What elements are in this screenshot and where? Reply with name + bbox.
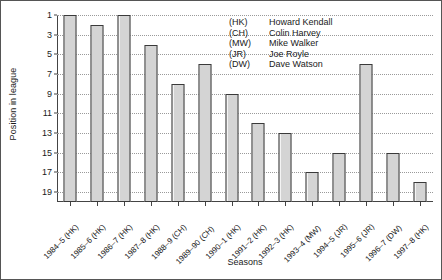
legend-item-code: (MW) — [229, 38, 265, 49]
legend-item-name: Joe Royle — [265, 49, 309, 60]
bar-slot: 1995–6 (JR) — [352, 15, 379, 202]
y-tick-label: 15 — [42, 148, 52, 157]
legend-item: (HK)Howard Kendall — [229, 17, 333, 28]
bar[interactable] — [198, 64, 211, 202]
bar[interactable] — [279, 133, 292, 202]
y-tick-label: 3 — [47, 30, 52, 39]
bar[interactable] — [91, 25, 104, 202]
legend-item: (DW)Dave Watson — [229, 59, 333, 70]
bar-slot: 1987–8 (HK) — [138, 15, 165, 202]
legend-item-name: Mike Walker — [265, 38, 318, 49]
bar-slot: 1985–6 (HK) — [84, 15, 111, 202]
bar[interactable] — [359, 64, 372, 202]
y-tick-label: 7 — [47, 70, 52, 79]
bar-slot: 1996–7 (DW) — [379, 15, 406, 202]
y-tick-label: 19 — [42, 188, 52, 197]
y-tick-label: 11 — [43, 109, 52, 118]
x-tick-mark — [124, 202, 125, 206]
y-tick-label: 5 — [47, 50, 52, 59]
legend-item-code: (CH) — [229, 28, 265, 39]
x-tick-mark — [420, 202, 421, 206]
x-tick-mark — [205, 202, 206, 206]
bar[interactable] — [332, 153, 345, 202]
legend-item: (JR)Joe Royle — [229, 49, 333, 60]
legend-item-code: (JR) — [229, 49, 265, 60]
x-tick-mark — [178, 202, 179, 206]
x-tick-mark — [97, 202, 98, 206]
y-tick-label: 13 — [42, 129, 52, 138]
bar[interactable] — [144, 45, 157, 202]
legend-item-name: Colin Harvey — [265, 28, 321, 39]
legend-item: (MW)Mike Walker — [229, 38, 333, 49]
x-tick-mark — [70, 202, 71, 206]
legend-item-name: Dave Watson — [265, 59, 323, 70]
y-tick-label: 17 — [42, 168, 52, 177]
x-axis-title: Seasons — [57, 257, 433, 267]
legend-item: (CH)Colin Harvey — [229, 28, 333, 39]
x-tick-mark — [339, 202, 340, 206]
bar-slot: 1989–90 (CH) — [191, 15, 218, 202]
bar[interactable] — [171, 84, 184, 202]
bar[interactable] — [413, 182, 426, 202]
bar[interactable] — [252, 123, 265, 202]
y-tick-label: 9 — [47, 89, 52, 98]
legend-item-code: (HK) — [229, 17, 265, 28]
x-tick-mark — [312, 202, 313, 206]
x-tick-mark — [258, 202, 259, 206]
bar-slot: 1986–7 (HK) — [111, 15, 138, 202]
bar[interactable] — [118, 15, 131, 202]
bar[interactable] — [64, 15, 77, 202]
bar-slot: 1984–5 (HK) — [57, 15, 84, 202]
x-tick-mark — [151, 202, 152, 206]
bar[interactable] — [386, 153, 399, 202]
y-axis-title: Position in league — [2, 1, 24, 206]
x-tick-mark — [285, 202, 286, 206]
x-tick-mark — [232, 202, 233, 206]
bar-slot: 1997–8 (HK) — [406, 15, 433, 202]
bar[interactable] — [225, 94, 238, 202]
legend-item-code: (DW) — [229, 59, 265, 70]
legend-item-name: Howard Kendall — [265, 17, 333, 28]
chart-figure: Position in league 135791113151719 1984–… — [0, 0, 442, 280]
x-tick-mark — [393, 202, 394, 206]
chart-legend: (HK)Howard Kendall(CH)Colin Harvey(MW)Mi… — [229, 17, 333, 70]
bar-slot: 1988–9 (CH) — [164, 15, 191, 202]
bar[interactable] — [306, 172, 319, 202]
y-axis-title-text: Position in league — [8, 67, 18, 140]
y-tick-label: 1 — [47, 11, 52, 20]
x-tick-mark — [366, 202, 367, 206]
